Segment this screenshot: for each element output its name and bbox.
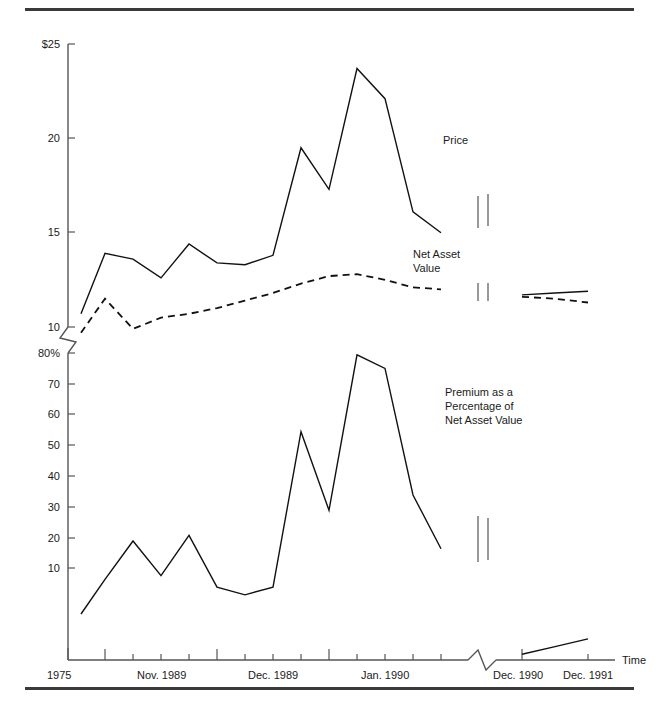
y-axis-break-marker [60,327,76,353]
nav-line-segment-right [522,297,588,303]
y-axis-break-zigzag [60,327,76,353]
x-tick-label-dec1990: Dec. 1990 [493,669,543,681]
chart-canvas: $25 20 15 10 80% 70 60 50 40 30 20 [0,0,659,704]
nav-annotation-line1: Net Asset [413,248,460,260]
premium-line-segment-right [522,639,588,654]
x-axis-title: Time [622,654,646,666]
y-tick-label-20-lower: 20 [48,532,60,544]
nav-annotation-line2: Value [413,262,440,274]
y-tick-label-40: 40 [48,470,60,482]
y-axis-upper: $25 20 15 10 [42,38,75,333]
series-net-asset-value: Net Asset Value [81,248,588,333]
series-premium-percentage: Premium as a Percentage of Net Asset Val… [81,355,588,654]
y-axis-lower: 80% 70 60 50 40 30 20 10 [38,347,75,660]
y-tick-label-20: 20 [48,132,60,144]
premium-annotation-line1: Premium as a [445,386,514,398]
x-axis: 1975 Nov. 1989 Dec. 1989 Jan. 1990 Dec. … [47,648,646,681]
y-tick-label-10: 10 [48,321,60,333]
x-tick-label-dec1989: Dec. 1989 [248,669,298,681]
y-tick-label-25: $25 [42,38,60,50]
figure-container: $25 20 15 10 80% 70 60 50 40 30 20 [0,0,659,704]
price-line-segment-right [522,291,588,295]
y-tick-label-30: 30 [48,501,60,513]
premium-line-segment-left [81,355,441,614]
x-tick-label-jan1990: Jan. 1990 [361,669,409,681]
x-tick-label-1975: 1975 [47,669,71,681]
y-tick-label-15: 15 [48,226,60,238]
nav-line-segment-left [81,274,441,333]
x-axis-break-zigzag [468,650,496,670]
series-price: Price [81,69,588,314]
y-tick-label-50: 50 [48,439,60,451]
y-tick-label-70: 70 [48,378,60,390]
premium-annotation-line3: Net Asset Value [445,414,522,426]
price-line-segment-left [81,69,441,314]
premium-annotation-line2: Percentage of [445,400,514,412]
x-tick-label-dec1991: Dec. 1991 [563,669,613,681]
x-tick-label-nov1989: Nov. 1989 [137,669,186,681]
y-tick-label-80: 80% [38,347,60,359]
price-annotation: Price [443,134,468,146]
y-tick-label-60: 60 [48,408,60,420]
y-tick-label-10-lower: 10 [48,562,60,574]
